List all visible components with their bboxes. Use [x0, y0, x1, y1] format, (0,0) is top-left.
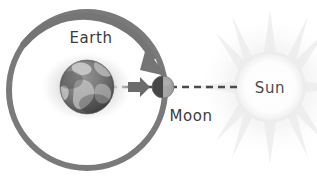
- moon-label: Moon: [169, 107, 212, 125]
- earth-label: Earth: [69, 29, 112, 47]
- sun-group: Sun: [195, 10, 317, 164]
- earth-moon-sun-diagram: Sun Earth: [0, 0, 317, 177]
- earth-group: Earth: [40, 29, 134, 123]
- diagram-canvas: Sun Earth: [0, 0, 317, 177]
- sun-label: Sun: [255, 79, 285, 97]
